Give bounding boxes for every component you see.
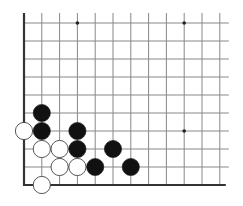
black-stone-icon <box>104 140 121 157</box>
black-stone-icon <box>69 140 86 157</box>
white-stone-icon <box>51 158 68 175</box>
black-stone-icon <box>87 158 104 175</box>
white-stone-icon <box>69 158 86 175</box>
star-point-icon <box>182 21 186 25</box>
white-stone-icon <box>51 140 68 157</box>
black-stone-icon <box>33 104 50 121</box>
black-stone-icon <box>69 122 86 139</box>
go-board <box>0 0 243 206</box>
white-stone-icon <box>33 140 50 157</box>
black-stone-icon <box>122 158 139 175</box>
grid-lines <box>24 13 229 185</box>
board-edges <box>23 13 226 186</box>
white-stone-icon <box>15 122 32 139</box>
white-stone-icon <box>33 176 50 193</box>
star-point-icon <box>76 21 80 25</box>
star-point-icon <box>182 129 186 133</box>
black-stone-icon <box>33 122 50 139</box>
